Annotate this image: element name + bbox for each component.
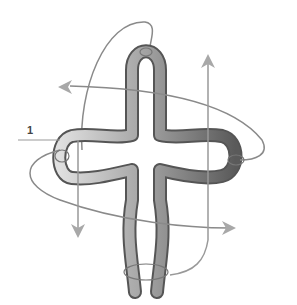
arrow-left-icon bbox=[58, 80, 72, 94]
label-1: 1 bbox=[27, 124, 33, 136]
cross-tube bbox=[59, 51, 235, 292]
cross-tube-diagram bbox=[0, 0, 297, 305]
